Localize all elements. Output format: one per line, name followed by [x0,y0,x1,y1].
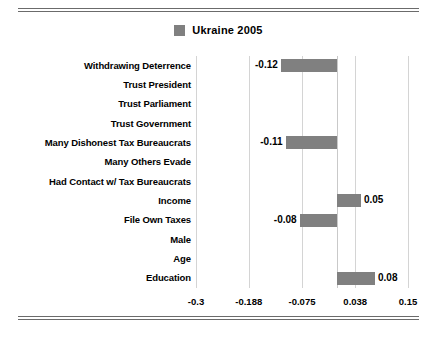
bar-value-label: -0.08 [270,213,297,227]
category-label: Male [6,235,191,245]
bar [286,136,338,149]
bar [337,194,361,207]
chart-row: 0.08 [196,269,408,288]
category-label: Age [6,254,191,264]
chart-figure: Ukraine 2005 Withdrawing DeterrenceTrust… [0,0,437,337]
x-tick-label: -0.3 [188,296,204,307]
chart-row [196,75,408,94]
chart-row: -0.12 [196,56,408,75]
category-axis-labels: Withdrawing DeterrenceTrust PresidentTru… [6,56,191,288]
bar [337,272,375,285]
legend-swatch-icon [174,25,185,36]
gridline [408,56,409,288]
chart-legend: Ukraine 2005 [0,24,437,36]
chart-row: -0.11 [196,133,408,152]
x-tick-label: -0.188 [235,296,262,307]
category-label: Trust President [6,80,191,90]
x-tick-label: 0.15 [399,296,418,307]
category-label: Trust Government [6,119,191,129]
category-label: Withdrawing Deterrence [6,61,191,71]
category-label: Many Dishonest Tax Bureaucrats [6,138,191,148]
bar-value-label: -0.12 [251,58,278,72]
category-label: Had Contact w/ Tax Bureaucrats [6,177,191,187]
chart-row: 0.05 [196,191,408,210]
bar-value-label: 0.05 [364,193,383,207]
chart-row [196,249,408,268]
bar [300,214,338,227]
value-axis-tick-labels: -0.3-0.188-0.0750.0380.15 [196,296,408,310]
bar-value-label: -0.11 [256,135,283,149]
chart-row [196,114,408,133]
chart-row: -0.08 [196,211,408,230]
plot-area: -0.12-0.110.05-0.080.08 [196,56,408,288]
chart-row [196,230,408,249]
bottom-divider-rule [18,316,419,320]
top-divider-rule [18,8,419,12]
category-label: File Own Taxes [6,215,191,225]
category-label: Income [6,196,191,206]
category-label: Education [6,273,191,283]
chart-row [196,172,408,191]
category-label: Trust Parliament [6,99,191,109]
legend-label: Ukraine 2005 [192,24,262,36]
bar-value-label: 0.08 [378,271,397,285]
chart-row [196,95,408,114]
category-label: Many Others Evade [6,157,191,167]
bar [281,59,338,72]
x-tick-label: -0.075 [289,296,316,307]
x-tick-label: 0.038 [343,296,367,307]
chart-row [196,153,408,172]
